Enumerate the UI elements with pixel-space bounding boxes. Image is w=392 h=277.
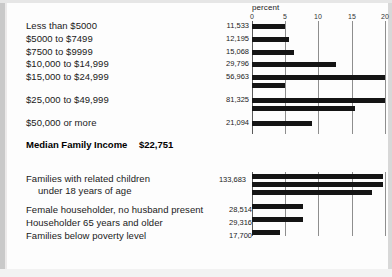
row-label-char-4: Families below poverty level [26,230,146,241]
row-label-char-2: Female householder, no husband present [26,204,203,215]
bottom-chart-plot-area [252,172,385,236]
row-label-char-1-line2: under 18 years of age [38,186,131,197]
row-label-income-7: $50,000 or more [26,117,96,128]
gridline-20-bottom [385,172,386,236]
bar-top-5a [252,75,385,80]
scan-edge-right [388,0,392,277]
row-label-income-2: $5000 to $7499 [26,33,93,44]
row-count-income-3: 15,068 [209,47,249,56]
row-count-income-7: 21,094 [209,118,249,127]
median-family-income-label: Median Family Income [26,139,127,150]
scan-edge-bottom [0,269,392,277]
bar-top-2 [252,37,289,42]
row-label-income-4: $10,000 to $14,999 [26,58,109,69]
bar-top-3 [252,50,294,55]
bar-bottom-2 [252,204,303,209]
bar-top-4 [252,62,336,67]
median-family-income-value: $22,751 [139,139,173,150]
axis-tick-15: 15 [348,13,356,20]
row-count-char-1: 133,683 [206,175,246,184]
bar-top-1 [252,24,285,29]
row-count-char-3: 29,316 [212,218,252,227]
top-chart-plot-area [252,21,385,134]
row-count-income-4: 29,796 [209,59,249,68]
gridline-20 [385,21,386,134]
row-count-income-5: 56,963 [209,72,249,81]
bar-bottom-1c [252,190,372,195]
axis-tick-20: 20 [381,13,389,20]
row-label-char-3: Householder 65 years and older [26,217,163,228]
row-label-income-3: $7500 to $9999 [26,46,93,57]
bar-top-7 [252,121,312,126]
row-count-income-2: 12,195 [209,34,249,43]
bar-top-5b [252,83,285,88]
row-count-char-2: 28,514 [212,205,252,214]
row-label-income-1: Less than $5000 [26,20,97,31]
bar-bottom-3 [252,217,303,222]
row-count-income-1: 11,533 [209,21,249,30]
chart-axis-header: percent 0 5 10 15 20 [252,3,392,21]
axis-title: percent [252,3,279,12]
row-label-char-1-line1: Families with related children [26,174,150,185]
axis-tick-0: 0 [250,13,254,20]
row-label-income-5: $15,000 to $24,999 [26,71,109,82]
axis-tick-5: 5 [283,13,287,20]
bar-bottom-1a [252,174,383,179]
scan-edge-left-inner [5,0,7,277]
axis-tick-10: 10 [314,13,322,20]
bar-bottom-4 [252,230,280,235]
row-label-income-6: $25,000 to $49,999 [26,94,109,105]
row-count-income-6: 81,325 [209,95,249,104]
row-count-char-4: 17,700 [212,231,252,240]
figure-page: percent 0 5 10 15 20 Less than $5000 $50… [0,0,392,277]
bar-bottom-1b [252,182,383,187]
bar-top-6b [252,106,355,111]
bar-top-6a [252,98,385,103]
